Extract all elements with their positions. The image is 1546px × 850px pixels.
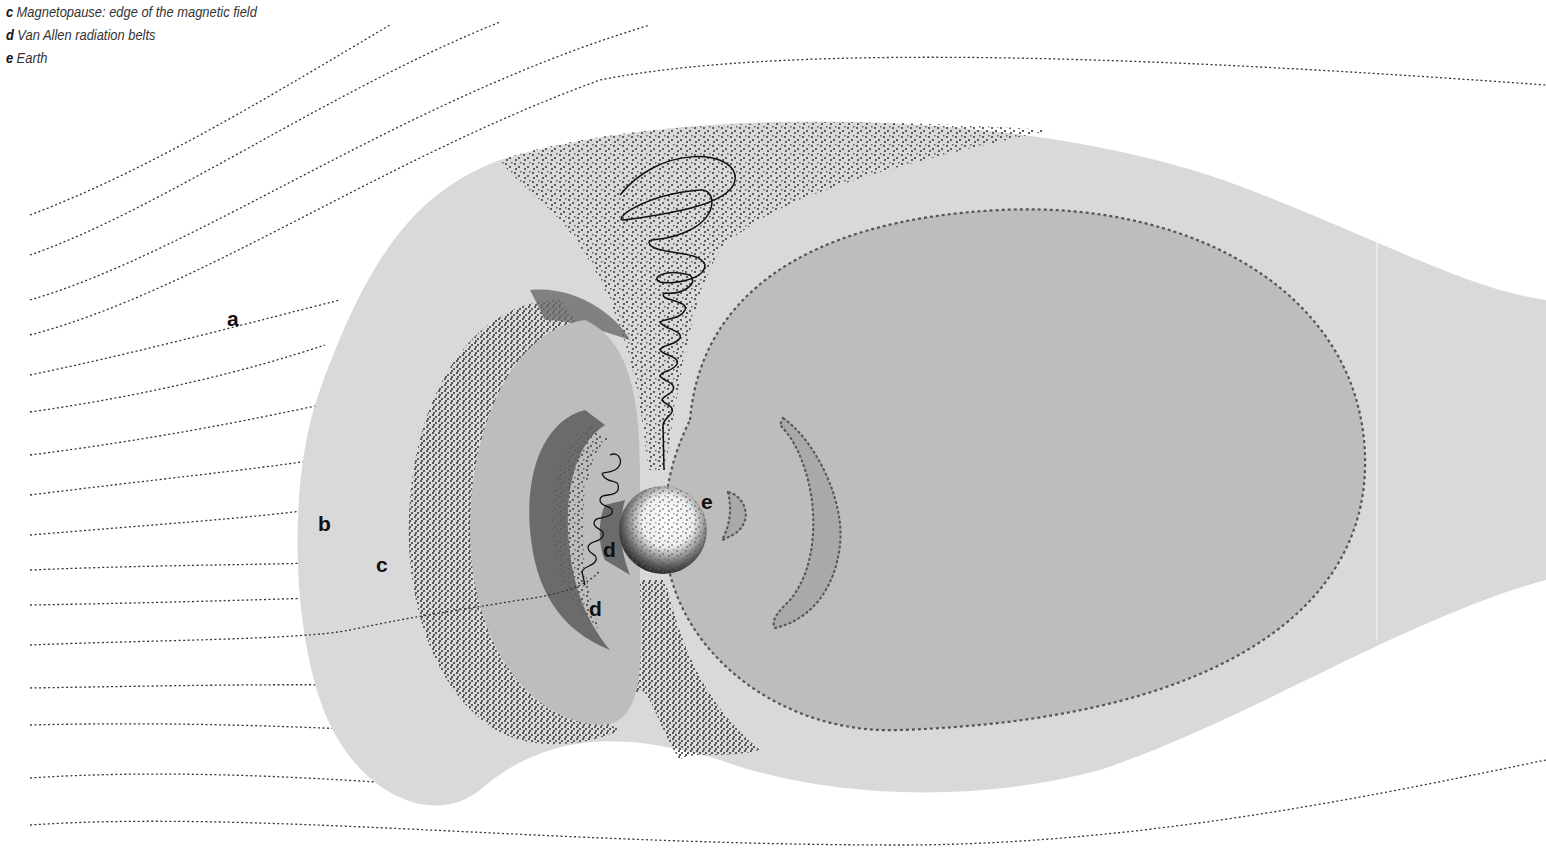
legend-text: Earth	[17, 49, 48, 66]
label-a: a	[227, 307, 239, 330]
legend-key: d	[6, 26, 14, 43]
field-line	[30, 460, 315, 495]
field-line	[30, 563, 312, 570]
legend-item-c: cMagnetopause: edge of the magnetic fiel…	[6, 0, 257, 23]
field-line	[30, 685, 340, 688]
legend-item-d: dVan Allen radiation belts	[6, 23, 257, 46]
field-line	[30, 510, 310, 535]
label-d-upper: d	[603, 538, 616, 561]
field-line	[30, 724, 370, 730]
label-c: c	[376, 553, 388, 576]
field-line	[30, 300, 340, 375]
legend: cMagnetopause: edge of the magnetic fiel…	[6, 0, 298, 69]
legend-text: Van Allen radiation belts	[17, 26, 155, 43]
label-d-lower: d	[589, 597, 602, 620]
legend-key: e	[6, 49, 13, 66]
legend-key: c	[6, 3, 13, 20]
field-line	[30, 405, 320, 455]
earth	[619, 486, 707, 574]
label-b: b	[318, 512, 331, 535]
label-e: e	[701, 490, 713, 513]
legend-item-e: eEarth	[6, 46, 257, 69]
field-line	[30, 345, 325, 412]
field-line	[30, 774, 420, 785]
field-line	[30, 598, 315, 605]
magnetosphere-diagram: a b c d d e	[0, 0, 1546, 850]
legend-text: Magnetopause: edge of the magnetic field	[17, 3, 257, 20]
